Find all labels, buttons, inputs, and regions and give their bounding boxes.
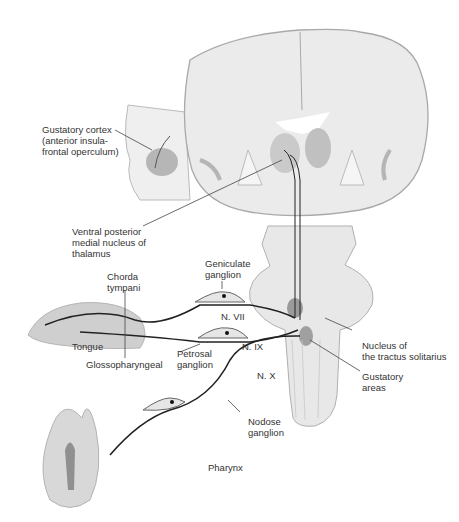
label-n-x: N. X	[257, 370, 275, 381]
cortex-inset	[125, 105, 190, 200]
label-glossopharyngeal: Glossopharyngeal	[86, 359, 163, 370]
label-gustatory-cortex: Gustatory cortex (anterior insula- front…	[42, 124, 119, 157]
label-nucleus-tractus-solitarius: Nucleus of the tractus solitarius	[362, 340, 446, 362]
label-petrosal-ganglion: Petrosal ganglion	[177, 348, 213, 370]
label-pharynx: Pharynx	[208, 462, 243, 473]
label-gustatory-areas: Gustatory areas	[362, 371, 403, 393]
label-geniculate-ganglion: Geniculate ganglion	[205, 258, 250, 280]
label-nodose-ganglion: Nodose ganglion	[248, 416, 284, 438]
brainstem	[249, 226, 372, 426]
label-n-vii: N. VII	[221, 311, 245, 322]
label-vpm-thalamus: Ventral posterior medial nucleus of thal…	[72, 226, 146, 259]
label-tongue: Tongue	[72, 341, 103, 352]
label-n-ix: N. IX	[242, 341, 263, 352]
label-chorda-tympani: Chorda tympani	[107, 271, 140, 293]
pharynx	[43, 409, 99, 508]
brain-coronal-section	[184, 29, 428, 215]
